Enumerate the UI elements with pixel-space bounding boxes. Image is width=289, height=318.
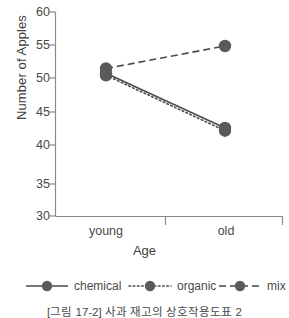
legend-swatch-organic bbox=[128, 279, 172, 293]
legend-item-organic[interactable]: organic bbox=[128, 276, 216, 296]
plot-area bbox=[0, 0, 289, 240]
interaction-plot-figure: Number of Apples 60 55 50 45 40 35 30 bbox=[0, 0, 289, 318]
data-point-organic-young bbox=[100, 69, 112, 81]
legend-label-mix: mix bbox=[267, 279, 286, 293]
legend-label-chemical: chemical bbox=[74, 279, 121, 293]
data-point-organic-old bbox=[219, 125, 231, 137]
chart-legend: chemical organic mix bbox=[0, 276, 289, 296]
legend-marker-icon bbox=[235, 281, 245, 291]
x-tick-label-old: old bbox=[196, 224, 256, 238]
legend-swatch-mix bbox=[218, 279, 262, 293]
legend-swatch-chemical bbox=[25, 279, 69, 293]
legend-label-organic: organic bbox=[177, 279, 216, 293]
series-line-mix bbox=[106, 46, 225, 69]
legend-marker-icon bbox=[145, 281, 155, 291]
legend-item-chemical[interactable]: chemical bbox=[25, 276, 121, 296]
x-axis-title: Age bbox=[0, 243, 289, 258]
figure-caption: [그림 17-2] 사과 재고의 상호작용도표 2 bbox=[0, 303, 289, 318]
legend-item-mix[interactable]: mix bbox=[218, 276, 286, 296]
data-point-mix-old bbox=[219, 40, 231, 52]
x-tick-label-young: young bbox=[76, 224, 136, 238]
legend-marker-icon bbox=[42, 281, 52, 291]
series-line-organic bbox=[106, 75, 225, 130]
series-line-chemical bbox=[106, 73, 225, 128]
